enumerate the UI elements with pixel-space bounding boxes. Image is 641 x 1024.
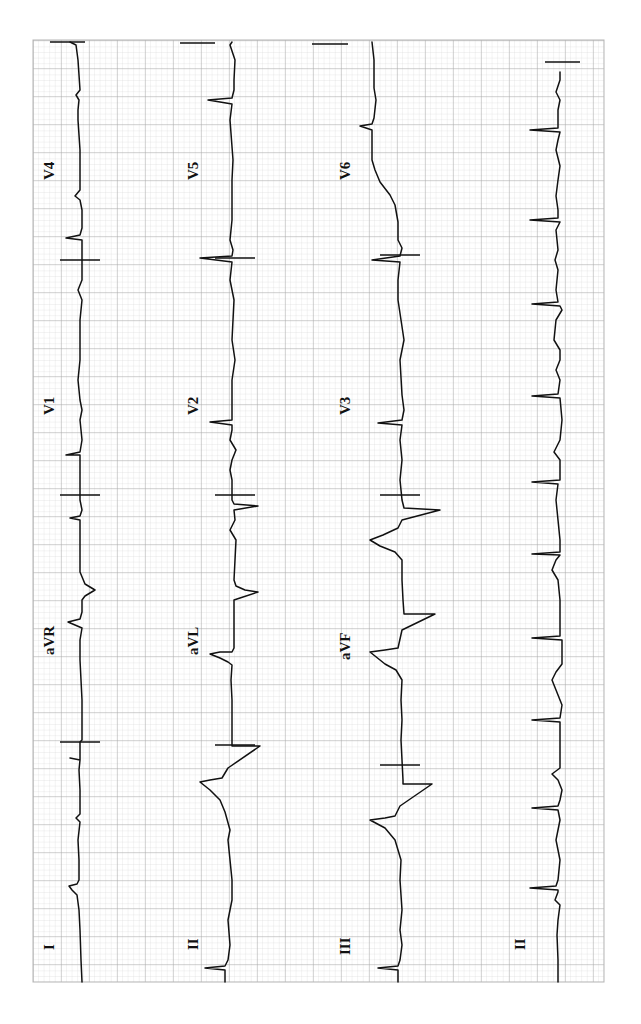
label-I: I (41, 944, 57, 950)
label-aVL: aVL (185, 627, 201, 655)
label-V4: V4 (41, 161, 57, 180)
label-V6: V6 (337, 161, 353, 180)
ecg-sheet: I aVR V1 V4 II aVL V2 V5 III aVF V3 V6 I… (0, 0, 641, 1024)
label-rhythm-II: II (512, 938, 528, 950)
ecg-grid (33, 40, 604, 982)
label-II: II (185, 938, 201, 950)
label-V5: V5 (185, 162, 201, 180)
label-III: III (337, 937, 353, 955)
label-aVR: aVR (41, 626, 57, 655)
label-V1: V1 (41, 397, 57, 415)
label-V3: V3 (337, 397, 353, 415)
label-aVF: aVF (337, 633, 353, 661)
label-V2: V2 (185, 397, 201, 415)
